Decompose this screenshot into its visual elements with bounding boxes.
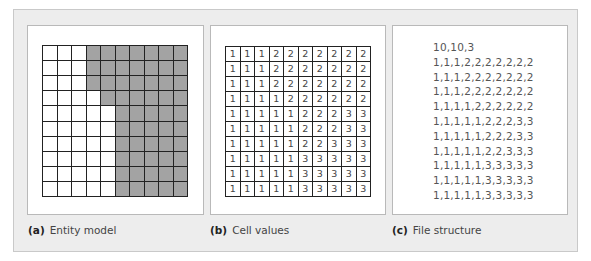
entity-cell xyxy=(58,46,72,60)
entity-cell xyxy=(130,91,144,105)
value-cell: 3 xyxy=(313,182,327,196)
value-cell: 1 xyxy=(226,77,240,91)
value-cell: 2 xyxy=(299,92,313,106)
value-cell: 1 xyxy=(270,122,284,136)
value-cell: 2 xyxy=(299,47,313,61)
entity-cell xyxy=(174,106,188,120)
entity-model-panel xyxy=(27,25,204,215)
entity-model-grid xyxy=(42,45,188,197)
value-cell: 3 xyxy=(328,167,342,181)
entity-cell xyxy=(130,152,144,166)
entity-cell xyxy=(130,167,144,181)
value-cell: 1 xyxy=(270,152,284,166)
value-cell: 1 xyxy=(226,122,240,136)
value-cell: 1 xyxy=(284,137,298,151)
value-cell: 1 xyxy=(255,122,269,136)
entity-cell xyxy=(101,46,115,60)
entity-cell xyxy=(159,46,173,60)
entity-cell xyxy=(174,167,188,181)
file-data-line: 1,1,1,1,1,2,2,2,3,3 xyxy=(433,114,534,129)
entity-cell xyxy=(87,46,101,60)
value-cell: 1 xyxy=(226,92,240,106)
value-cell: 2 xyxy=(299,77,313,91)
entity-cell xyxy=(116,76,130,90)
entity-cell xyxy=(58,61,72,75)
entity-cell xyxy=(87,106,101,120)
caption-label: (b) xyxy=(210,224,227,236)
value-cell: 2 xyxy=(270,62,284,76)
value-cell: 1 xyxy=(255,107,269,121)
value-cell: 2 xyxy=(299,107,313,121)
value-cell: 1 xyxy=(226,107,240,121)
value-cell: 2 xyxy=(270,47,284,61)
value-cell: 3 xyxy=(357,122,371,136)
file-data-line: 1,1,1,1,1,3,3,3,3,3 xyxy=(433,188,534,203)
value-cell: 3 xyxy=(357,152,371,166)
entity-cell xyxy=(58,76,72,90)
caption-label: (c) xyxy=(392,224,408,236)
caption-cell-values: (b)Cell values xyxy=(210,224,289,236)
entity-cell xyxy=(145,122,159,136)
value-cell: 1 xyxy=(226,137,240,151)
value-cell: 2 xyxy=(342,92,356,106)
value-cell: 1 xyxy=(255,47,269,61)
entity-cell xyxy=(101,182,115,196)
file-data-line: 1,1,1,1,1,3,3,3,3,3 xyxy=(433,158,534,173)
entity-cell xyxy=(72,167,86,181)
value-cell: 3 xyxy=(328,137,342,151)
entity-cell xyxy=(116,152,130,166)
entity-cell xyxy=(116,137,130,151)
value-cell: 2 xyxy=(328,107,342,121)
entity-cell xyxy=(43,46,57,60)
value-cell: 2 xyxy=(357,47,371,61)
value-cell: 3 xyxy=(299,182,313,196)
value-cell: 1 xyxy=(241,137,255,151)
value-cell: 2 xyxy=(313,107,327,121)
value-cell: 1 xyxy=(241,47,255,61)
value-cell: 1 xyxy=(270,182,284,196)
file-data-line: 1,1,1,1,1,2,2,2,3,3 xyxy=(433,129,534,144)
entity-cell xyxy=(58,137,72,151)
caption-title: File structure xyxy=(413,224,482,236)
value-cell: 1 xyxy=(255,62,269,76)
value-cell: 3 xyxy=(313,152,327,166)
entity-cell xyxy=(72,122,86,136)
entity-cell xyxy=(72,137,86,151)
value-cell: 3 xyxy=(328,152,342,166)
entity-cell xyxy=(58,122,72,136)
value-cell: 1 xyxy=(284,152,298,166)
entity-cell xyxy=(72,182,86,196)
file-structure-text: 10,10,31,1,1,2,2,2,2,2,2,21,1,1,2,2,2,2,… xyxy=(433,40,534,203)
entity-cell xyxy=(72,76,86,90)
value-cell: 3 xyxy=(342,122,356,136)
value-cell: 3 xyxy=(342,137,356,151)
entity-cell xyxy=(43,137,57,151)
value-cell: 1 xyxy=(241,122,255,136)
entity-cell xyxy=(101,122,115,136)
entity-cell xyxy=(130,46,144,60)
file-data-line: 1,1,1,2,2,2,2,2,2,2 xyxy=(433,55,534,70)
value-cell: 2 xyxy=(313,92,327,106)
value-cell: 3 xyxy=(357,107,371,121)
value-cell: 2 xyxy=(313,47,327,61)
entity-cell xyxy=(58,152,72,166)
value-cell: 1 xyxy=(255,182,269,196)
entity-cell xyxy=(130,106,144,120)
value-cell: 1 xyxy=(241,107,255,121)
value-cell: 1 xyxy=(241,167,255,181)
value-cell: 2 xyxy=(328,62,342,76)
cell-values-grid: 1112222222111222222211122222221111222222… xyxy=(225,46,371,197)
value-cell: 2 xyxy=(313,122,327,136)
entity-cell xyxy=(72,152,86,166)
caption-label: (a) xyxy=(28,224,45,236)
entity-cell xyxy=(145,167,159,181)
entity-cell xyxy=(87,137,101,151)
file-header-line: 10,10,3 xyxy=(433,40,534,55)
entity-cell xyxy=(145,61,159,75)
value-cell: 1 xyxy=(226,47,240,61)
caption-title: Entity model xyxy=(50,224,117,236)
entity-cell xyxy=(145,76,159,90)
entity-cell xyxy=(101,91,115,105)
entity-cell xyxy=(174,182,188,196)
entity-cell xyxy=(58,182,72,196)
